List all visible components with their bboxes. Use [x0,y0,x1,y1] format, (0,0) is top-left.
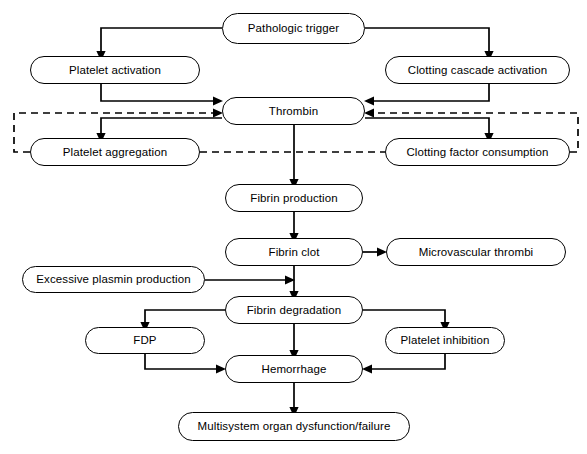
node-label-platelet_activation: Platelet activation [61,64,169,76]
node-microvascular_thrombi[interactable]: Microvascular thrombi [386,238,566,266]
dic-pathophysiology-flowchart: Pathologic triggerPlatelet activationClo… [0,0,587,454]
node-clotting_cascade[interactable]: Clotting cascade activation [385,56,570,84]
node-pathologic_trigger[interactable]: Pathologic trigger [222,13,365,44]
node-fdp[interactable]: FDP [85,327,205,354]
arrowhead [364,108,374,117]
node-clotting_factor_consumption[interactable]: Clotting factor consumption [385,138,570,166]
node-label-excessive_plasmin: Excessive plasmin production [28,273,198,285]
node-label-clotting_factor_consumption: Clotting factor consumption [398,146,556,158]
node-platelet_activation[interactable]: Platelet activation [30,56,200,84]
node-thrombin[interactable]: Thrombin [222,97,365,125]
node-label-microvascular_thrombi: Microvascular thrombi [411,246,542,258]
node-label-fdp: FDP [125,334,164,346]
arrowhead [213,96,223,105]
node-label-fibrin_clot: Fibrin clot [261,246,328,258]
edge-clotting-cascade-to-thrombin [364,84,489,106]
node-fibrin_degradation[interactable]: Fibrin degradation [225,296,363,324]
node-mods[interactable]: Multisystem organ dysfunction/failure [178,412,410,441]
node-label-mods: Multisystem organ dysfunction/failure [190,420,399,432]
edge-platelet-inhibition-to-hemorrhage [362,354,445,374]
node-label-clotting_cascade: Clotting cascade activation [400,64,556,76]
edge-excessive-plasmin-to-fibrin-degradation [205,275,295,284]
node-label-thrombin: Thrombin [261,105,326,117]
node-label-pathologic_trigger: Pathologic trigger [240,22,347,34]
node-platelet_inhibition[interactable]: Platelet inhibition [385,327,505,354]
node-label-fibrin_production: Fibrin production [242,192,345,204]
node-fibrin_production[interactable]: Fibrin production [225,184,363,212]
node-excessive_plasmin[interactable]: Excessive plasmin production [22,266,205,293]
node-fibrin_clot[interactable]: Fibrin clot [225,238,363,266]
arrowhead [364,96,374,105]
edge-fibrin-clot-to-microvascular-thrombi [363,247,387,256]
node-hemorrhage[interactable]: Hemorrhage [225,355,363,383]
node-label-platelet_inhibition: Platelet inhibition [393,334,498,346]
edge-platelet-activation-to-thrombin [101,84,223,106]
node-label-hemorrhage: Hemorrhage [254,363,335,375]
arrowhead [285,275,295,284]
node-platelet_aggregation[interactable]: Platelet aggregation [30,138,200,166]
edge-thrombin-to-fibrin-production [289,125,298,189]
arrowhead [362,364,372,373]
edge-fdp-to-hemorrhage [145,354,226,374]
node-label-fibrin_degradation: Fibrin degradation [239,304,350,316]
node-label-platelet_aggregation: Platelet aggregation [55,146,175,158]
